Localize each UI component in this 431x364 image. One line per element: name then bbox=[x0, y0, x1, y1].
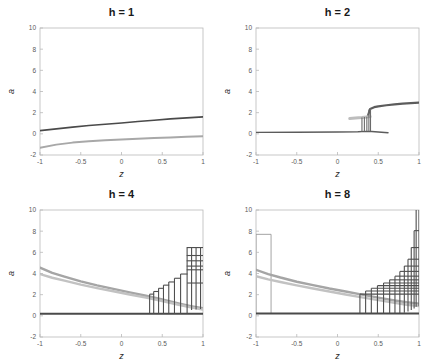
x-tick-label: -0.5 bbox=[75, 340, 87, 347]
subplot-title: h = 8 bbox=[325, 188, 350, 200]
subplot-h2: h = 2-1-0.500.51-20246810za bbox=[216, 0, 431, 182]
y-tick-label: 10 bbox=[29, 24, 37, 31]
y-tick-label: 2 bbox=[32, 291, 36, 298]
x-tick-label: 1 bbox=[201, 340, 205, 347]
y-tick-label: 8 bbox=[32, 46, 36, 53]
y-tick-label: 0 bbox=[248, 130, 252, 137]
x-tick-label: -0.5 bbox=[291, 340, 303, 347]
data-layer bbox=[40, 117, 203, 148]
plot-area: h = 8-1-0.500.51-20246810za bbox=[216, 182, 431, 364]
figure-canvas: h = 1-1-0.500.51-20246810za h = 2-1-0.50… bbox=[0, 0, 431, 364]
plot-area: h = 4-1-0.500.51-20246810za bbox=[0, 182, 215, 364]
y-tick-label: 0 bbox=[32, 130, 36, 137]
axes-frame bbox=[256, 210, 419, 337]
y-tick-label: 4 bbox=[248, 270, 252, 277]
subplot-title: h = 4 bbox=[109, 188, 135, 200]
x-tick-label: -1 bbox=[37, 340, 43, 347]
y-axis-label: a bbox=[6, 89, 16, 94]
series-decaying-band-lower bbox=[40, 274, 203, 309]
x-tick-label: -0.5 bbox=[291, 158, 303, 165]
x-tick-label: 0.5 bbox=[158, 340, 167, 347]
y-tick-label: -2 bbox=[30, 151, 36, 158]
x-tick-label: -1 bbox=[253, 340, 259, 347]
data-layer bbox=[40, 248, 203, 314]
y-tick-label: 10 bbox=[245, 206, 253, 213]
y-tick-label: 4 bbox=[32, 88, 36, 95]
y-tick-label: 2 bbox=[248, 291, 252, 298]
subplot-h1: h = 1-1-0.500.51-20246810za bbox=[0, 0, 215, 182]
series-decaying-band-upper bbox=[40, 268, 203, 309]
x-tick-label: 1 bbox=[417, 158, 421, 165]
y-tick-label: 8 bbox=[248, 46, 252, 53]
y-tick-label: 8 bbox=[32, 228, 36, 235]
y-tick-label: 10 bbox=[245, 24, 253, 31]
x-axis-label: z bbox=[118, 351, 124, 361]
y-tick-label: -2 bbox=[246, 333, 252, 340]
x-tick-label: 0.5 bbox=[158, 158, 167, 165]
y-axis-label: a bbox=[222, 271, 232, 276]
y-axis-label: a bbox=[6, 271, 16, 276]
series-lower-branch bbox=[40, 136, 203, 148]
subplot-h4: h = 4-1-0.500.51-20246810za bbox=[0, 182, 215, 364]
y-tick-label: 6 bbox=[32, 67, 36, 74]
axes-frame bbox=[40, 210, 203, 337]
series-upper-branch bbox=[40, 117, 203, 131]
y-tick-label: 6 bbox=[32, 249, 36, 256]
x-tick-label: 0 bbox=[336, 340, 340, 347]
x-tick-label: -1 bbox=[37, 158, 43, 165]
x-tick-label: 0 bbox=[336, 158, 340, 165]
series-zero-baseline bbox=[256, 131, 388, 132]
x-tick-label: 0 bbox=[120, 158, 124, 165]
y-tick-label: 8 bbox=[248, 228, 252, 235]
x-tick-label: 0.5 bbox=[374, 158, 383, 165]
data-layer bbox=[256, 207, 419, 314]
axes-frame bbox=[40, 28, 203, 155]
x-tick-label: -1 bbox=[253, 158, 259, 165]
x-tick-label: -0.5 bbox=[75, 158, 87, 165]
subplot-title: h = 2 bbox=[325, 6, 350, 18]
x-tick-label: 0.5 bbox=[374, 340, 383, 347]
y-tick-label: 0 bbox=[248, 312, 252, 319]
x-tick-label: 1 bbox=[201, 158, 205, 165]
x-tick-label: 0 bbox=[120, 340, 124, 347]
x-axis-label: z bbox=[334, 351, 340, 361]
plot-area: h = 1-1-0.500.51-20246810za bbox=[0, 0, 215, 182]
series-upper-branch bbox=[368, 103, 419, 117]
axes-frame bbox=[256, 28, 419, 155]
data-layer bbox=[256, 103, 419, 133]
y-tick-label: 10 bbox=[29, 206, 37, 213]
y-tick-label: -2 bbox=[246, 151, 252, 158]
x-axis-label: z bbox=[118, 169, 124, 179]
y-tick-label: 4 bbox=[32, 270, 36, 277]
x-tick-label: 1 bbox=[417, 340, 421, 347]
subplot-h8: h = 8-1-0.500.51-20246810za bbox=[216, 182, 431, 364]
subplot-title: h = 1 bbox=[109, 6, 134, 18]
y-tick-label: 0 bbox=[32, 312, 36, 319]
y-tick-label: -2 bbox=[30, 333, 36, 340]
y-tick-label: 6 bbox=[248, 67, 252, 74]
y-axis-label: a bbox=[222, 89, 232, 94]
y-tick-label: 2 bbox=[248, 109, 252, 116]
y-tick-label: 6 bbox=[248, 249, 252, 256]
x-axis-label: z bbox=[334, 169, 340, 179]
y-tick-label: 2 bbox=[32, 109, 36, 116]
plot-area: h = 2-1-0.500.51-20246810za bbox=[216, 0, 431, 182]
y-tick-label: 4 bbox=[248, 88, 252, 95]
